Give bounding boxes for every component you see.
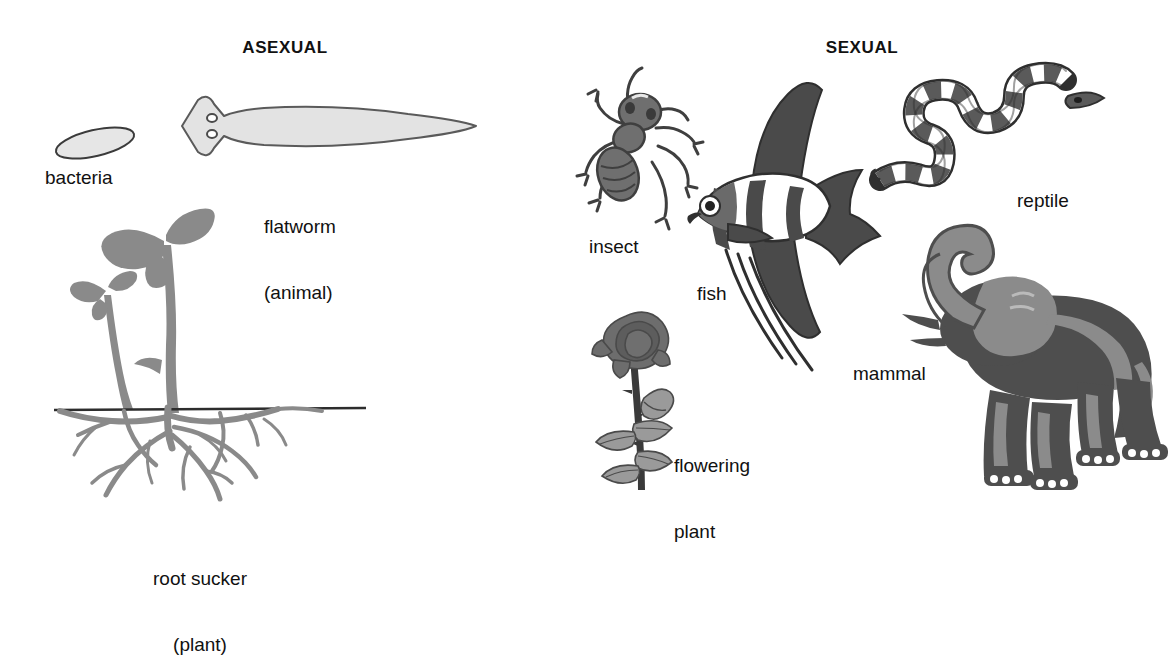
label-fish: fish <box>697 283 727 305</box>
label-insect: insect <box>589 236 639 258</box>
heading-asexual: ASEXUAL <box>242 38 327 58</box>
bacteria-figure <box>50 118 140 168</box>
label-root-sucker-line2: (plant) <box>153 634 247 656</box>
reptile-figure <box>872 72 1112 197</box>
label-root-sucker-line1: root sucker <box>153 568 247 590</box>
fish-figure <box>680 88 895 378</box>
root-sucker-figure <box>50 195 370 505</box>
label-reptile: reptile <box>1017 190 1069 212</box>
label-mammal: mammal <box>853 363 926 385</box>
flatworm-figure <box>168 86 488 166</box>
label-flowering-plant: flowering plant <box>674 411 750 587</box>
label-flowering-plant-line1: flowering <box>674 455 750 477</box>
label-bacteria: bacteria <box>45 167 113 189</box>
label-root-sucker: root sucker (plant) <box>153 524 247 659</box>
label-flowering-plant-line2: plant <box>674 521 750 543</box>
heading-sexual: SEXUAL <box>826 38 899 58</box>
